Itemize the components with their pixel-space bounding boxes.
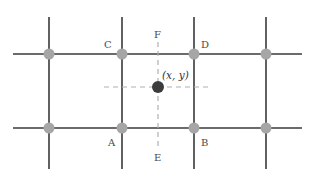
grid-node xyxy=(44,49,55,60)
grid-node-a xyxy=(117,123,128,134)
grid-node-b xyxy=(189,123,200,134)
label-c: C xyxy=(104,39,112,50)
grid-node xyxy=(44,123,55,134)
sample-point xyxy=(152,81,164,93)
label-f: F xyxy=(154,29,161,40)
grid-node-c xyxy=(117,49,128,60)
label-d: D xyxy=(201,39,209,50)
grid-node-d xyxy=(189,49,200,60)
label-e: E xyxy=(154,152,161,163)
label-a: A xyxy=(107,137,116,148)
interpolation-diagram: C D F A B E (x, y) xyxy=(0,0,312,182)
label-point-xy: (x, y) xyxy=(162,69,189,81)
grid-node xyxy=(261,123,272,134)
label-b: B xyxy=(201,137,208,148)
grid-node xyxy=(261,49,272,60)
